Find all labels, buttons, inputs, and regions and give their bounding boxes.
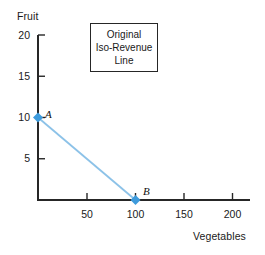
x-tick-label-100: 100 — [121, 208, 151, 220]
data-point-b-label: B — [143, 185, 150, 197]
x-tick-label-200: 200 — [218, 208, 248, 220]
annotation-line-3: Line — [115, 54, 134, 67]
data-point-a-label: A — [45, 108, 52, 120]
x-axis-title: Vegetables — [193, 230, 246, 242]
y-tick-label-15: 15 — [10, 70, 30, 82]
y-tick-label-5: 5 — [10, 152, 30, 164]
iso-revenue-chart: Fruit Vegetables 20 15 10 5 50 100 150 2… — [0, 0, 265, 255]
annotation-line-1: Original — [107, 28, 141, 41]
iso-revenue-annotation-box: Original Iso-Revenue Line — [90, 23, 158, 72]
annotation-line-2: Iso-Revenue — [96, 41, 153, 54]
iso-revenue-line — [38, 118, 136, 201]
y-tick-label-20: 20 — [10, 29, 30, 41]
y-axis-title: Fruit — [17, 10, 39, 22]
x-tick-label-50: 50 — [72, 208, 102, 220]
x-tick-label-150: 150 — [169, 208, 199, 220]
y-tick-label-10: 10 — [10, 111, 30, 123]
